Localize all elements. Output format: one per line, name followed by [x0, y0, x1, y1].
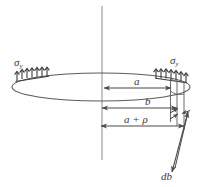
- figure-canvas: σy σy a b a + ρ db: [0, 0, 202, 187]
- label-sigma-y-left: σy: [14, 57, 23, 70]
- label-dimension-b: b: [145, 96, 151, 107]
- stress-arrows-right: [154, 69, 189, 83]
- label-dimension-a-plus-rho: a + ρ: [124, 114, 148, 125]
- ring-element-side-lines: [171, 79, 185, 131]
- plate-disc-ellipse: [12, 73, 190, 101]
- sigma-subscript-left: y: [19, 62, 22, 70]
- label-sigma-y-right: σy: [170, 55, 179, 68]
- label-element-db: db: [161, 171, 172, 182]
- db-leader-arrow: [172, 112, 188, 172]
- sigma-subscript-right: y: [175, 60, 178, 68]
- diagram-svg: [0, 0, 202, 187]
- label-dimension-a: a: [134, 76, 140, 87]
